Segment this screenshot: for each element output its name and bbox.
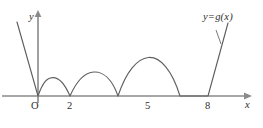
x-tick-label-origin: O [31, 101, 39, 112]
y-axis-label: y [29, 12, 34, 23]
x-tick-label-8: 8 [205, 101, 210, 112]
curve-equation-label: y=g(x) [203, 12, 233, 23]
y-axis-arrowhead [35, 10, 42, 17]
curve-label-leader-line [216, 30, 221, 44]
x-tick-label-5: 5 [145, 101, 150, 112]
x-axis-label: x [245, 100, 250, 111]
graph-figure: y=g(x) y x O 2 5 8 [0, 0, 263, 128]
function-curve [17, 22, 228, 96]
x-tick-label-2: 2 [67, 101, 72, 112]
